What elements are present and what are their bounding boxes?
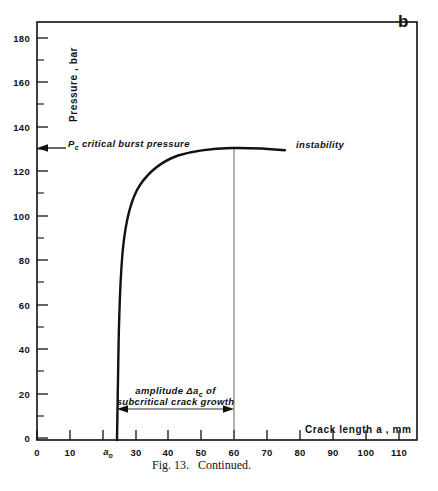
- x-tick-80: 80: [290, 447, 310, 458]
- y-tick-80: 80: [2, 255, 30, 266]
- pc-subscript: c: [75, 144, 79, 151]
- y-tick-40: 40: [2, 344, 30, 355]
- x-tick-a0: ao: [98, 446, 118, 459]
- y-tick-120: 120: [2, 166, 30, 177]
- x-tick-0: 0: [27, 447, 47, 458]
- pc-text: critical burst pressure: [82, 138, 190, 149]
- figure-13b: 180 160 140 120 100 80 60 40 20 0 0 10 a…: [0, 0, 438, 491]
- x-tick-70: 70: [257, 447, 277, 458]
- x-tick-60: 60: [224, 447, 244, 458]
- pc-symbol: P: [68, 138, 75, 149]
- instability-label: instability: [296, 139, 344, 150]
- y-axis-minor-ticks: [37, 60, 44, 416]
- amplitude-of: of: [206, 385, 216, 396]
- x-tick-30: 30: [126, 447, 146, 458]
- y-tick-160: 160: [2, 77, 30, 88]
- y-tick-0: 0: [2, 433, 30, 444]
- plot-frame: [37, 22, 417, 440]
- x-axis-title: Crack length a , mm: [305, 424, 411, 435]
- y-tick-60: 60: [2, 300, 30, 311]
- x-tick-100: 100: [354, 447, 378, 458]
- y-axis-title: Pressure , bar: [68, 47, 79, 122]
- critical-pressure-arrow: [37, 144, 66, 152]
- x-tick-110: 110: [387, 447, 411, 458]
- y-tick-140: 140: [2, 122, 30, 133]
- x-tick-40: 40: [158, 447, 178, 458]
- critical-burst-pressure-label: Pc critical burst pressure: [68, 138, 190, 151]
- amplitude-word: amplitude: [135, 385, 183, 396]
- y-tick-180: 180: [2, 33, 30, 44]
- panel-letter-b: b: [398, 12, 408, 32]
- x-tick-50: 50: [191, 447, 211, 458]
- y-tick-100: 100: [2, 211, 30, 222]
- x-tick-10: 10: [60, 447, 80, 458]
- a0-subscript: o: [109, 452, 113, 459]
- x-tick-90: 90: [323, 447, 343, 458]
- chart-plot-area: [0, 0, 438, 491]
- y-tick-20: 20: [2, 389, 30, 400]
- figure-caption: Fig. 13. Continued.: [152, 458, 251, 473]
- amplitude-label-line2: subcritical crack growth: [112, 396, 239, 407]
